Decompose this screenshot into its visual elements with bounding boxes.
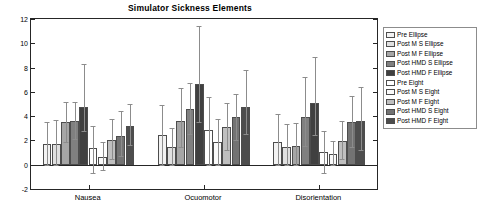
y-axis-tick xyxy=(31,165,35,166)
legend-item[interactable]: Post M F Eight xyxy=(386,97,474,107)
x-axis-category-label: Nausea xyxy=(75,193,101,202)
legend-item[interactable]: Post M S Ellipse xyxy=(386,40,474,50)
error-bar xyxy=(84,64,85,131)
error-bar xyxy=(352,96,353,147)
error-bar-cap xyxy=(225,150,230,151)
y-axis-label: 4 xyxy=(24,113,28,120)
error-bar xyxy=(75,102,76,139)
legend-item[interactable]: Post M S Eight xyxy=(386,88,474,98)
error-bar-cap xyxy=(215,165,220,166)
legend-color-swatch xyxy=(386,80,395,86)
legend-item-label: Post M F Eight xyxy=(397,99,439,105)
error-bar xyxy=(361,87,362,150)
chart-container: Simulator Sickness Elements -2024681012 … xyxy=(0,0,478,224)
legend-item[interactable]: Post HMD F Ellipse xyxy=(386,68,474,78)
error-bar xyxy=(342,121,343,159)
error-bar xyxy=(324,131,325,174)
y-axis-tick xyxy=(373,165,377,166)
error-bar-cap xyxy=(303,146,308,147)
y-axis-tick xyxy=(31,19,35,20)
error-bar-cap xyxy=(188,83,193,84)
error-bar xyxy=(181,88,182,147)
error-bar-cap xyxy=(188,134,193,135)
y-axis-label: -2 xyxy=(22,186,28,193)
error-bar-cap xyxy=(178,88,183,89)
error-bar-cap xyxy=(197,122,202,123)
error-bar-cap xyxy=(243,134,248,135)
error-bar-cap xyxy=(63,102,68,103)
legend-item-label: Post HMD F Ellipse xyxy=(397,70,452,76)
error-bar xyxy=(333,141,334,165)
error-bar xyxy=(130,104,131,145)
legend-item-label: Post HMD S Eight xyxy=(397,108,449,114)
error-bar-cap xyxy=(312,57,317,58)
x-axis-tick xyxy=(89,185,90,189)
x-axis-category-label: Disorientation xyxy=(295,193,341,202)
y-axis-tick xyxy=(31,140,35,141)
error-bar-cap xyxy=(197,26,202,27)
error-bar-cap xyxy=(312,135,317,136)
error-bar xyxy=(296,123,297,164)
error-bar-cap xyxy=(169,165,174,166)
error-bar xyxy=(112,119,113,159)
error-bar-cap xyxy=(109,159,114,160)
error-bar-cap xyxy=(82,64,87,65)
error-bar-cap xyxy=(294,165,299,166)
legend-color-swatch xyxy=(386,61,395,67)
error-bar xyxy=(278,114,279,164)
error-bar-cap xyxy=(275,165,280,166)
error-bar-cap xyxy=(45,122,50,123)
legend-color-swatch xyxy=(386,89,395,95)
plot-area: -2024681012 xyxy=(30,18,378,190)
error-bar-cap xyxy=(45,165,50,166)
error-bar-cap xyxy=(321,173,326,174)
legend-item-label: Post M S Ellipse xyxy=(397,41,444,47)
error-bar-cap xyxy=(243,70,248,71)
plot-inner: -2024681012 xyxy=(31,19,377,189)
legend-item[interactable]: Pre Eight xyxy=(386,78,474,88)
error-bar-cap xyxy=(160,165,165,166)
error-bar-cap xyxy=(118,156,123,157)
legend-color-swatch xyxy=(386,41,395,47)
legend-item[interactable]: Post HMD F Eight xyxy=(386,116,474,126)
legend-color-swatch xyxy=(386,118,395,124)
y-axis-label: 2 xyxy=(24,137,28,144)
legend-item-label: Pre Ellipse xyxy=(397,32,428,38)
error-bar-cap xyxy=(160,105,165,106)
error-bar-cap xyxy=(225,103,230,104)
legend-color-swatch xyxy=(386,99,395,105)
error-bar xyxy=(121,111,122,156)
error-bar xyxy=(218,119,219,165)
chart-title: Simulator Sickness Elements xyxy=(0,3,380,13)
x-axis-category-label: Ocuomotor xyxy=(184,193,221,202)
legend-item[interactable]: Post M F Ellipse xyxy=(386,49,474,59)
error-bar-cap xyxy=(72,139,77,140)
y-axis-label: 12 xyxy=(20,16,28,23)
y-axis-tick xyxy=(373,19,377,20)
error-bar-cap xyxy=(128,145,133,146)
legend-item[interactable]: Post HMD S Ellipse xyxy=(386,59,474,69)
legend-color-swatch xyxy=(386,51,395,57)
error-bar-cap xyxy=(234,140,239,141)
legend-item[interactable]: Post HMD S Eight xyxy=(386,107,474,117)
legend-color-swatch xyxy=(386,70,395,76)
y-axis-tick xyxy=(373,116,377,117)
legend-item-label: Post M F Ellipse xyxy=(397,51,443,57)
y-axis-tick xyxy=(373,189,377,190)
error-bar-cap xyxy=(294,123,299,124)
error-bar-cap xyxy=(169,128,174,129)
error-bar xyxy=(315,57,316,135)
error-bar-cap xyxy=(82,131,87,132)
error-bar-cap xyxy=(118,111,123,112)
error-bar-cap xyxy=(358,87,363,88)
error-bar xyxy=(287,124,288,165)
error-bar-cap xyxy=(321,131,326,132)
zero-baseline xyxy=(31,165,377,166)
error-bar-cap xyxy=(285,124,290,125)
y-axis-tick xyxy=(373,43,377,44)
error-bar-cap xyxy=(340,121,345,122)
legend-item[interactable]: Pre Ellipse xyxy=(386,30,474,40)
y-axis-tick xyxy=(31,43,35,44)
error-bar-cap xyxy=(206,165,211,166)
error-bar-cap xyxy=(206,97,211,98)
